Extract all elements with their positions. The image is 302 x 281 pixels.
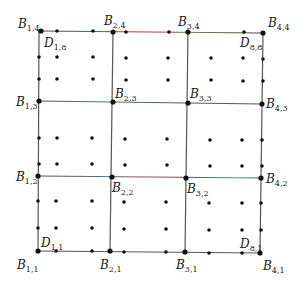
block-corner-point bbox=[259, 101, 264, 106]
label-b32: B3,2 bbox=[187, 183, 209, 198]
grid-line-h2 bbox=[38, 176, 261, 178]
grid-dots bbox=[35, 28, 265, 255]
grid-dot bbox=[241, 56, 245, 60]
label-subscript: 3,2 bbox=[196, 189, 209, 198]
label-base: B bbox=[16, 170, 25, 184]
label-base: D bbox=[41, 236, 51, 250]
label-base: B bbox=[100, 258, 109, 272]
label-base: D bbox=[44, 36, 54, 50]
label-base: B bbox=[187, 182, 196, 196]
grid-dot bbox=[122, 250, 126, 254]
label-base: B bbox=[112, 181, 121, 195]
label-b33: B3,3 bbox=[190, 88, 212, 103]
grid-dot bbox=[37, 55, 41, 59]
label-base: B bbox=[16, 95, 25, 109]
label-base: B bbox=[17, 258, 26, 272]
label-b34: B3,4 bbox=[178, 16, 200, 31]
block-corner-point bbox=[183, 175, 188, 180]
grid-dot bbox=[164, 200, 168, 204]
label-base: B bbox=[178, 15, 187, 29]
grid-dot bbox=[90, 136, 94, 140]
block-corner-point bbox=[110, 29, 115, 34]
grid-dot bbox=[209, 56, 213, 60]
grid-dot bbox=[166, 56, 170, 60]
grid-dot bbox=[208, 164, 212, 168]
grid-line-v1 bbox=[38, 31, 39, 251]
label-subscript: 8,1 bbox=[250, 244, 263, 253]
block-corner-point bbox=[109, 174, 114, 179]
label-base: B bbox=[115, 87, 124, 101]
grid-dot bbox=[91, 29, 95, 33]
label-b42: B4,2 bbox=[266, 173, 288, 188]
grid-dot bbox=[207, 251, 211, 255]
grid-dot bbox=[240, 228, 244, 232]
block-corner-point bbox=[258, 175, 263, 180]
grid-dot bbox=[36, 199, 40, 203]
grid-dot bbox=[124, 30, 128, 34]
label-d18: D1,8 bbox=[44, 37, 66, 52]
label-base: B bbox=[176, 258, 185, 272]
label-b13: B1,3 bbox=[16, 96, 38, 111]
label-d11: D1,1 bbox=[41, 237, 63, 252]
label-subscript: 4,2 bbox=[275, 179, 288, 188]
label-subscript: 2,2 bbox=[121, 188, 134, 197]
grid-dot bbox=[36, 226, 40, 230]
label-subscript: 2,1 bbox=[109, 265, 122, 274]
grid-dot bbox=[55, 162, 59, 166]
label-subscript: 3,3 bbox=[199, 94, 212, 103]
label-base: B bbox=[266, 172, 275, 186]
grid-dot bbox=[37, 162, 41, 166]
grid-dot bbox=[90, 162, 94, 166]
grid-dot bbox=[55, 29, 59, 33]
grid-dot bbox=[91, 77, 95, 81]
label-subscript: 4,4 bbox=[277, 23, 290, 32]
label-base: D bbox=[240, 237, 250, 251]
grid-dot bbox=[91, 55, 95, 59]
grid-dot bbox=[165, 163, 169, 167]
grid-dot bbox=[207, 228, 211, 232]
label-base: B bbox=[104, 14, 113, 28]
grid-dot bbox=[261, 79, 265, 83]
grid-dot bbox=[240, 138, 244, 142]
grid-line-h4 bbox=[39, 31, 262, 33]
grid-dot bbox=[37, 136, 41, 140]
grid-dot bbox=[54, 199, 58, 203]
label-b41: B4,1 bbox=[263, 260, 285, 275]
grid-line-v2 bbox=[110, 32, 113, 251]
label-base: B bbox=[268, 16, 277, 30]
label-base: B bbox=[266, 97, 275, 111]
label-b31: B3,1 bbox=[176, 259, 198, 274]
grid-dot bbox=[55, 136, 59, 140]
grid-dot bbox=[165, 137, 169, 141]
grid-dot bbox=[207, 201, 211, 205]
label-subscript: 1,8 bbox=[54, 43, 67, 52]
label-subscript: 2,3 bbox=[124, 94, 137, 103]
label-base: B bbox=[263, 259, 272, 273]
label-b14: B1,4 bbox=[18, 18, 40, 33]
grid-dot bbox=[208, 138, 212, 142]
label-d81: D8,1 bbox=[240, 238, 262, 253]
label-d88: D8,8 bbox=[240, 37, 262, 52]
block-corner-point bbox=[35, 248, 40, 253]
grid-dot bbox=[260, 164, 264, 168]
grid-dot bbox=[37, 77, 41, 81]
grid-dot bbox=[240, 201, 244, 205]
grid-dot bbox=[123, 163, 127, 167]
label-subscript: 2,4 bbox=[113, 21, 126, 30]
grid-line-h1 bbox=[38, 251, 260, 253]
grid-dot bbox=[164, 250, 168, 254]
grid-line-v3 bbox=[185, 32, 188, 252]
label-subscript: 8,8 bbox=[250, 43, 263, 52]
label-b24: B2,4 bbox=[104, 15, 126, 30]
grid-dot bbox=[259, 228, 263, 232]
grid-dot bbox=[209, 78, 213, 82]
block-corner-point bbox=[182, 249, 187, 254]
grid-dot bbox=[122, 227, 126, 231]
grid-dot bbox=[90, 199, 94, 203]
label-b12: B1,2 bbox=[16, 171, 38, 186]
grid-dot bbox=[240, 164, 244, 168]
label-subscript: 1,4 bbox=[27, 24, 40, 33]
grid-dot bbox=[164, 227, 168, 231]
label-subscript: 3,1 bbox=[185, 265, 198, 274]
grid-dot bbox=[260, 138, 264, 142]
